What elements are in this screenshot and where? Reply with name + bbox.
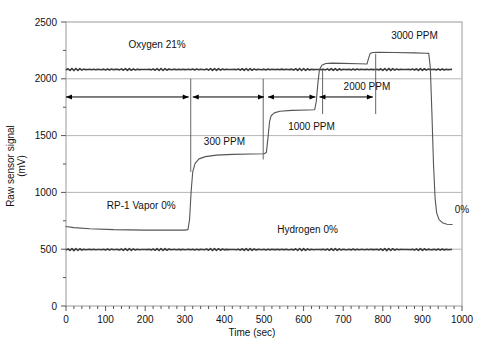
x-tick-label: 300 bbox=[176, 314, 193, 325]
x-tick-label: 400 bbox=[216, 314, 233, 325]
oxygen-label: Oxygen 21% bbox=[128, 39, 185, 50]
conc-2000: 2000 PPM bbox=[344, 81, 391, 92]
chart-canvas: 0500100015002000250001002003004005006007… bbox=[0, 0, 494, 352]
interval-baseline-arrowhead-left bbox=[66, 94, 72, 99]
interval-1000ppm-arrowhead-right bbox=[309, 94, 315, 99]
y-tick-label: 2500 bbox=[35, 17, 58, 28]
x-tick-label: 100 bbox=[97, 314, 114, 325]
x-tick-label: 1000 bbox=[451, 314, 474, 325]
y-tick-label: 1000 bbox=[35, 187, 58, 198]
y-tick-label: 500 bbox=[40, 244, 57, 255]
y-tick-label: 0 bbox=[51, 301, 57, 312]
x-tick-label: 800 bbox=[374, 314, 391, 325]
y-tick-label: 1500 bbox=[35, 130, 58, 141]
x-tick-label: 500 bbox=[256, 314, 273, 325]
x-tick-label: 900 bbox=[414, 314, 431, 325]
conc-zero: 0% bbox=[455, 204, 470, 215]
series-oxygen bbox=[66, 68, 452, 70]
chart-figure: 0500100015002000250001002003004005006007… bbox=[0, 0, 494, 352]
x-tick-label: 0 bbox=[63, 314, 69, 325]
rp1-label: RP-1 Vapor 0% bbox=[107, 200, 176, 211]
plot-frame bbox=[66, 22, 462, 306]
interval-baseline-arrowhead-right bbox=[183, 94, 189, 99]
x-tick-label: 700 bbox=[335, 314, 352, 325]
x-axis-title: Time (sec) bbox=[197, 327, 307, 338]
x-tick-label: 600 bbox=[295, 314, 312, 325]
interval-300ppm-arrowhead-left bbox=[193, 94, 199, 99]
conc-300: 300 PPM bbox=[204, 136, 245, 147]
x-tick-label: 200 bbox=[137, 314, 154, 325]
conc-1000: 1000 PPM bbox=[288, 121, 335, 132]
conc-3000: 3000 PPM bbox=[391, 30, 438, 41]
hydrogen-label: Hydrogen 0% bbox=[277, 224, 338, 235]
interval-2000ppm-arrowhead-right bbox=[367, 94, 373, 99]
y-axis-title: Raw sensor signal (mV) bbox=[5, 116, 27, 216]
interval-1000ppm-arrowhead-left bbox=[268, 94, 274, 99]
y-tick-label: 2000 bbox=[35, 73, 58, 84]
